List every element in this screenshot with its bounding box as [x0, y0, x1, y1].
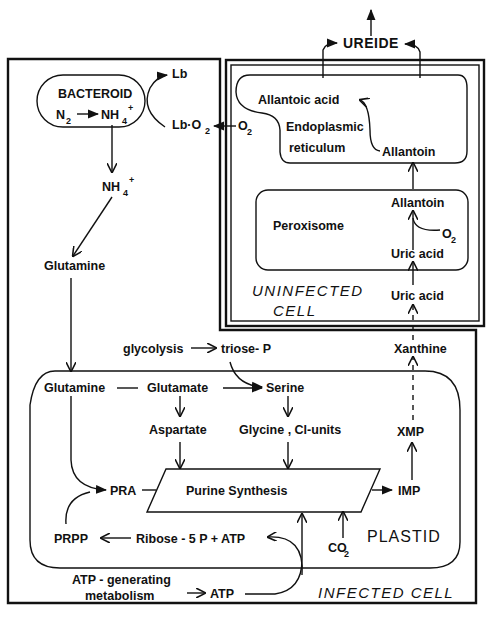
atp-label: ATP: [210, 587, 234, 601]
uric-acid-cytosol: Uric acid: [391, 289, 444, 303]
ribose-5p-atp: Ribose - 5 P + ATP: [136, 532, 245, 546]
ureide-biosynthesis-diagram: UREIDE BACTEROID N 2 NH 4 + Lb Lb·O 2 O …: [0, 0, 488, 623]
atp-generating-label-2: metabolism: [85, 589, 154, 603]
allantoic-acid: Allantoic acid: [258, 93, 339, 107]
uninfected-cell-label-2: CELL: [273, 302, 317, 319]
svg-text:2: 2: [66, 116, 71, 126]
lb-label: Lb: [172, 67, 188, 81]
xanthine: Xanthine: [394, 342, 447, 356]
svg-text:N: N: [56, 108, 65, 122]
atp-generating-label-1: ATP - generating: [72, 573, 171, 587]
plastid-label: PLASTID: [367, 528, 441, 545]
imp: IMP: [398, 484, 420, 498]
allantoin-peroxisome: Allantoin: [391, 196, 444, 210]
lb-o2-label: Lb·O: [172, 118, 201, 132]
svg-text:+: +: [128, 103, 133, 113]
er-label-2: reticulum: [289, 141, 345, 155]
glutamate: Glutamate: [147, 381, 208, 395]
endoplasmic-reticulum: Allantoic acid Endoplasmic reticulum All…: [236, 75, 467, 163]
bacteroid-label: BACTEROID: [58, 87, 132, 101]
leghemoglobin-cycle: Lb Lb·O 2 O 2: [147, 67, 252, 137]
uric-acid-peroxisome: Uric acid: [391, 247, 444, 261]
xmp: XMP: [397, 425, 424, 439]
svg-text:4: 4: [122, 116, 127, 126]
xanthine-pathway: Xanthine: [394, 305, 447, 420]
nh4-cytosol: NH: [102, 180, 120, 194]
serine: Serine: [266, 381, 304, 395]
bacteroid: BACTEROID N 2 NH 4 +: [37, 75, 145, 127]
svg-text:2: 2: [344, 549, 349, 559]
aspartate: Aspartate: [149, 423, 207, 437]
glycolysis-label: glycolysis: [123, 342, 183, 356]
uninfected-cell-label-1: UNINFECTED: [252, 282, 364, 299]
svg-text:2: 2: [247, 127, 252, 137]
svg-text:2: 2: [451, 235, 456, 245]
peroxisome: Peroxisome Allantoin O 2 Uric acid: [256, 163, 468, 270]
glutamine-cytosol: Glutamine: [44, 259, 105, 273]
plastid: PLASTID Glutamine Glutamate Serine Aspar…: [30, 371, 460, 568]
ammonium-assimilation: NH 4 + Glutamine: [44, 125, 134, 371]
prpp: PRPP: [54, 532, 88, 546]
infected-cell-label: INFECTED CELL: [318, 584, 454, 601]
ureide-label: UREIDE: [343, 35, 399, 51]
ureide-output: UREIDE: [323, 10, 420, 78]
glycine-c1-units: Glycine , Cl-units: [239, 423, 341, 437]
triose-p-label: triose- P: [221, 342, 271, 356]
svg-text:4: 4: [123, 188, 128, 198]
svg-text:+: +: [129, 175, 134, 185]
svg-text:NH: NH: [101, 108, 119, 122]
er-label-1: Endoplasmic: [286, 120, 364, 134]
allantoin-er: Allantoin: [382, 145, 435, 159]
peroxisome-label: Peroxisome: [273, 219, 344, 233]
infected-cell-boundary: [8, 59, 476, 603]
purine-synthesis-label: Purine Synthesis: [186, 484, 287, 498]
glutamine-plastid: Glutamine: [44, 381, 105, 395]
pra: PRA: [110, 484, 136, 498]
svg-text:2: 2: [205, 126, 210, 136]
